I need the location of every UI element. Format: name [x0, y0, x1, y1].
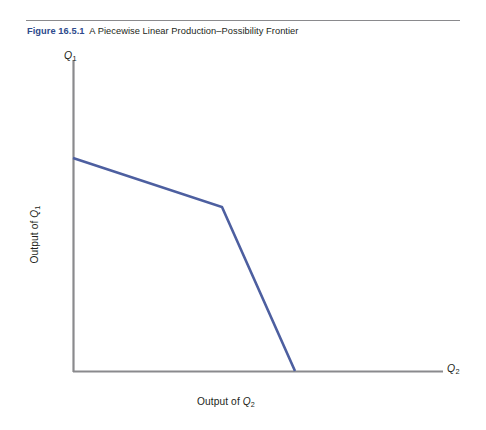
x-axis-title: Output of Q2	[197, 396, 255, 407]
x-axis-end-label: Q2	[447, 362, 459, 374]
chart-svg	[0, 0, 486, 430]
y-axis-title: Output of Q1	[29, 180, 40, 290]
chart-plot-area	[0, 0, 486, 430]
production-possibility-frontier	[73, 158, 295, 371]
figure-container: Figure 16.5.1 A Piecewise Linear Product…	[0, 0, 486, 430]
y-axis-end-label: Q1	[64, 49, 76, 61]
